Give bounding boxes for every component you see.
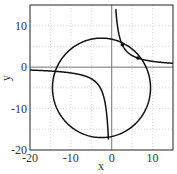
svg-text:10: 10 bbox=[15, 19, 27, 33]
svg-text:0: 0 bbox=[21, 60, 27, 74]
svg-text:-10: -10 bbox=[11, 102, 27, 116]
zero-axes bbox=[30, 5, 173, 150]
intersection-points bbox=[121, 43, 140, 60]
svg-text:10: 10 bbox=[147, 151, 159, 165]
svg-text:0: 0 bbox=[109, 151, 115, 165]
svg-text:-10: -10 bbox=[63, 151, 79, 165]
svg-text:-20: -20 bbox=[11, 143, 27, 157]
hyperbola-branch-upper bbox=[116, 9, 173, 63]
plot: -20-10010-20-10010 x y bbox=[0, 0, 177, 174]
grid bbox=[30, 5, 173, 150]
y-axis-label: y bbox=[0, 75, 13, 81]
plot-frame bbox=[30, 5, 173, 150]
x-axis-label: x bbox=[98, 159, 104, 173]
